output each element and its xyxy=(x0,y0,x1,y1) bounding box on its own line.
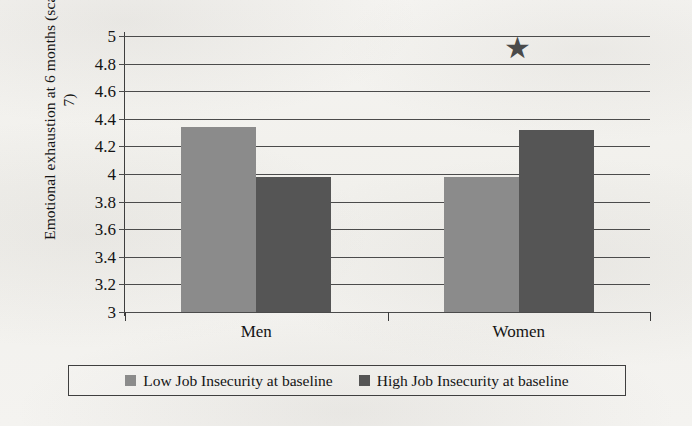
x-axis-category-label: Women xyxy=(493,322,545,342)
y-axis-tick-label: 3.2 xyxy=(60,276,122,293)
gridline xyxy=(125,64,650,65)
y-axis-tick-label: 5 xyxy=(60,28,122,45)
legend-label: High Job Insecurity at baseline xyxy=(377,372,569,390)
x-axis-category-label: Men xyxy=(241,322,272,342)
bar-men-high xyxy=(256,177,331,312)
legend-swatch-icon xyxy=(359,375,370,386)
x-axis-tick-mark xyxy=(388,312,389,321)
bar-women-high xyxy=(519,130,594,312)
y-axis-tick-label: 4.4 xyxy=(60,110,122,127)
y-axis-tick-labels: 54.84.64.44.243.83.63.43.23 xyxy=(60,0,122,426)
x-axis-tick-mark xyxy=(125,312,126,321)
chart-legend: Low Job Insecurity at baselineHigh Job I… xyxy=(68,365,626,396)
legend-label: Low Job Insecurity at baseline xyxy=(143,372,332,390)
x-axis-tick-mark xyxy=(650,312,651,321)
y-axis-tick-label: 4.8 xyxy=(60,55,122,72)
legend-swatch-icon xyxy=(125,375,136,386)
y-axis-tick-label: 4.2 xyxy=(60,138,122,155)
y-axis-tick-label: 3.8 xyxy=(60,193,122,210)
legend-item-low: Low Job Insecurity at baseline xyxy=(125,372,332,390)
significance-star-icon: ★ xyxy=(504,33,531,63)
bar-women-low xyxy=(444,177,519,312)
gridline xyxy=(125,119,650,120)
bar-chart-figure: Emotional exhaustion at 6 months (scale:… xyxy=(0,0,692,426)
x-axis-category-labels: MenWomen xyxy=(125,322,650,350)
plot-area: ★ xyxy=(125,36,650,312)
gridline xyxy=(125,91,650,92)
gridline xyxy=(125,36,650,37)
y-axis-tick-label: 4 xyxy=(60,166,122,183)
y-axis-tick-label: 3.4 xyxy=(60,248,122,265)
y-axis-tick-label: 3 xyxy=(60,304,122,321)
bar-men-low xyxy=(181,127,256,312)
y-axis-tick-label: 3.6 xyxy=(60,221,122,238)
y-axis-tick-label: 4.6 xyxy=(60,83,122,100)
legend-item-high: High Job Insecurity at baseline xyxy=(359,372,569,390)
